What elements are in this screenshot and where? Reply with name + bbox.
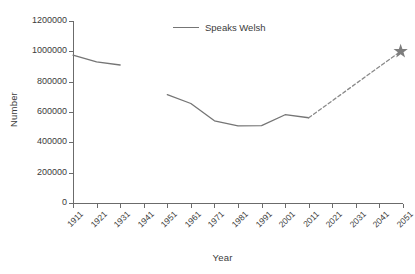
target-star-marker <box>394 44 408 58</box>
series-segment-0 <box>73 55 120 65</box>
series-speaks-welsh <box>73 55 309 126</box>
series-projection <box>309 51 401 117</box>
series-segment-1 <box>167 95 308 126</box>
target-star-shape <box>394 44 408 58</box>
projection-line <box>309 51 401 117</box>
